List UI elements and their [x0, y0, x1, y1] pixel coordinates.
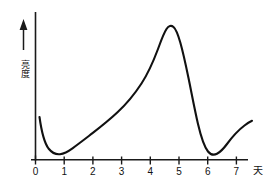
light-curve-figure: 亮度 0 1 2 3 4 5 6 7 天 [0, 0, 270, 184]
x-tick-label-0: 0 [29, 166, 43, 178]
x-tick-label-2: 2 [86, 166, 100, 178]
x-tick-label-1: 1 [57, 166, 71, 178]
y-axis-direction-arrow-icon [20, 19, 28, 50]
x-tick-label-6: 6 [201, 166, 215, 178]
x-axis-unit-label: 天 [250, 165, 266, 177]
y-axis-title: 亮度 [16, 60, 30, 78]
light-curve-path [40, 26, 253, 155]
x-tick-label-5: 5 [172, 166, 186, 178]
x-tick-label-7: 7 [229, 166, 243, 178]
x-tick-label-4: 4 [143, 166, 157, 178]
plot-area [0, 0, 270, 184]
x-tick-label-3: 3 [115, 166, 129, 178]
